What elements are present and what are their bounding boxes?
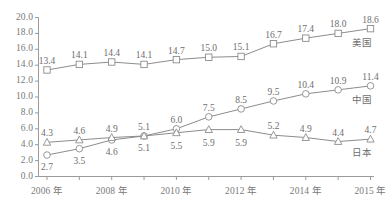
data-label: 5.9 [235, 138, 247, 148]
y-axis-tick-label: 18.0 [3, 27, 33, 37]
data-label: 4.6 [106, 147, 118, 157]
square-marker [367, 25, 373, 31]
data-label: 5.9 [203, 138, 215, 148]
data-label: 4.6 [73, 126, 85, 136]
x-axis-tick-label: 2006 年 [22, 183, 72, 197]
data-label: 4.4 [332, 128, 344, 138]
data-label: 10.9 [330, 76, 347, 86]
square-marker [44, 67, 50, 73]
series-legend-日本: 日本 [352, 145, 372, 159]
square-marker [141, 61, 147, 67]
square-marker [76, 61, 82, 67]
data-label: 14.7 [168, 46, 185, 56]
data-label: 15.1 [233, 42, 250, 52]
x-axis-tick-label: 2015 年 [346, 183, 390, 197]
x-axis-tick-label: 2014 年 [281, 183, 331, 197]
square-marker [335, 30, 341, 36]
square-marker [206, 54, 212, 60]
y-axis-tick-label: 20.0 [3, 12, 33, 22]
y-axis-tick-label: 0.0 [3, 171, 33, 181]
data-label: 4.9 [300, 124, 312, 134]
circle-marker [335, 87, 342, 94]
y-axis-tick-label: 10.0 [3, 91, 33, 101]
data-label: 15.0 [200, 43, 217, 53]
square-marker [109, 59, 115, 65]
data-label: 6.0 [170, 115, 182, 125]
x-axis-tick-label: 2008 年 [87, 183, 137, 197]
y-axis-tick-label: 12.0 [3, 75, 33, 85]
data-label: 17.4 [297, 24, 314, 34]
y-axis-tick-label: 16.0 [3, 43, 33, 53]
series-legend-美国: 美国 [352, 35, 372, 49]
circle-marker [44, 152, 51, 159]
series-legend-中国: 中国 [352, 92, 372, 106]
data-label: 14.1 [71, 50, 88, 60]
data-label: 18.0 [330, 19, 347, 29]
x-axis-tick-label: 2012 年 [216, 183, 266, 197]
square-marker [270, 41, 276, 47]
circle-marker [205, 114, 212, 121]
data-label: 2.7 [41, 162, 53, 172]
data-label: 5.5 [170, 141, 182, 151]
data-label: 5.1 [138, 143, 150, 153]
data-label: 14.4 [103, 48, 120, 58]
data-label: 11.4 [362, 72, 378, 82]
square-marker [238, 53, 244, 59]
data-label: 18.6 [362, 15, 379, 25]
y-axis-tick-label: 6.0 [3, 123, 33, 133]
data-label: 7.5 [203, 103, 215, 113]
y-axis-tick-label: 4.0 [3, 139, 33, 149]
circle-marker [303, 91, 310, 98]
data-label: 10.4 [297, 80, 314, 90]
chart-axes [39, 18, 375, 177]
data-label: 5.2 [268, 121, 280, 131]
data-label: 13.4 [39, 56, 56, 66]
y-axis-tick-label: 8.0 [3, 107, 33, 117]
data-label: 3.5 [73, 156, 85, 166]
square-marker [303, 35, 309, 41]
square-marker [173, 56, 179, 62]
circle-marker [76, 145, 83, 152]
data-label: 14.1 [136, 50, 153, 60]
data-label: 9.5 [268, 87, 280, 97]
y-axis-tick-label: 2.0 [3, 155, 33, 165]
circle-marker [238, 106, 245, 113]
circle-marker [270, 98, 277, 105]
triangle-marker [367, 135, 374, 142]
circle-marker [367, 83, 374, 90]
x-axis-tick-label: 2010 年 [151, 183, 201, 197]
data-label: 4.3 [41, 128, 53, 138]
data-label: 5.1 [138, 122, 150, 132]
data-label: 16.7 [265, 30, 282, 40]
data-label: 4.7 [365, 125, 377, 135]
y-axis-tick-label: 14.0 [3, 59, 33, 69]
data-label: 4.9 [106, 124, 118, 134]
data-label: 8.5 [235, 95, 247, 105]
